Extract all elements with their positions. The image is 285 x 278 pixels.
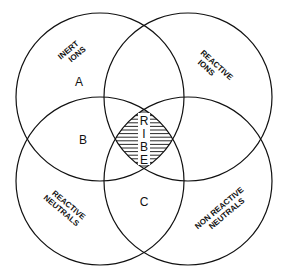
region-c-label: C (140, 195, 149, 209)
svg-text:R: R (140, 114, 149, 128)
label-reactive-neutrals: REACTIVE NEUTRALS (42, 186, 88, 229)
svg-text:E: E (140, 153, 148, 167)
label-inert-ions: INERT IONS (56, 37, 88, 68)
svg-text:B: B (140, 140, 148, 154)
ribe-label: R I B E (140, 114, 149, 167)
label-reactive-ions: REACTIVE IONS (193, 48, 236, 89)
region-b-label: B (79, 133, 87, 147)
region-a-label: A (75, 75, 83, 89)
svg-text:I: I (142, 127, 145, 141)
venn-diagram: INERT IONS REACTIVE IONS REACTIVE NEUTRA… (0, 0, 285, 278)
label-non-reactive-neutrals: NON REACTIVE NEUTRALS (193, 185, 251, 238)
